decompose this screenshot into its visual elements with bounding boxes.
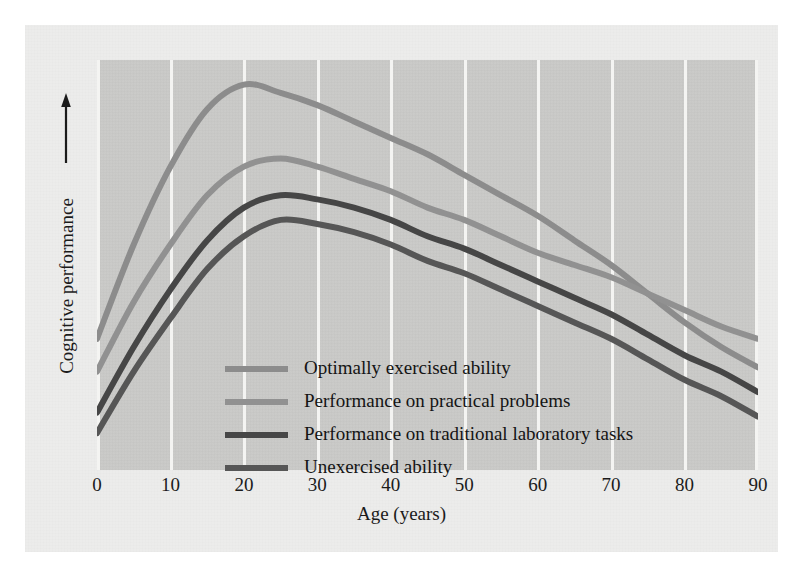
x-axis-title: Age (years): [25, 503, 778, 525]
x-axis-tick-label: 0: [77, 474, 117, 496]
x-axis-tick-label: 70: [591, 474, 631, 496]
legend-swatch: [225, 399, 288, 405]
x-axis-tick-label: 50: [444, 474, 484, 496]
legend-label: Performance on traditional laboratory ta…: [304, 423, 633, 445]
y-axis-title: Cognitive performance: [56, 136, 78, 436]
plot-area: Optimally exercised ability Performance …: [97, 60, 758, 470]
x-axis-tick-label: 90: [738, 474, 778, 496]
figure-page: Cognitive performance Optimally exercise…: [25, 25, 778, 552]
x-axis-ticks: 0102030405060708090: [97, 474, 758, 504]
x-axis-tick-label: 20: [224, 474, 264, 496]
legend-label: Optimally exercised ability: [304, 357, 511, 379]
figure-root: Cognitive performance Optimally exercise…: [0, 0, 803, 577]
chart-series-line: [97, 84, 758, 367]
y-axis-title-group: Cognitive performance: [35, 85, 81, 415]
x-axis-tick-label: 80: [665, 474, 705, 496]
x-axis-tick-label: 60: [518, 474, 558, 496]
legend-swatch: [225, 432, 288, 438]
x-axis-tick-label: 30: [297, 474, 337, 496]
legend-swatch: [225, 465, 288, 471]
chart-legend: Optimally exercised ability Performance …: [225, 357, 745, 482]
legend-label: Performance on practical problems: [304, 390, 570, 412]
x-axis-tick-label: 40: [371, 474, 411, 496]
legend-swatch: [225, 366, 288, 372]
x-axis-tick-label: 10: [150, 474, 190, 496]
